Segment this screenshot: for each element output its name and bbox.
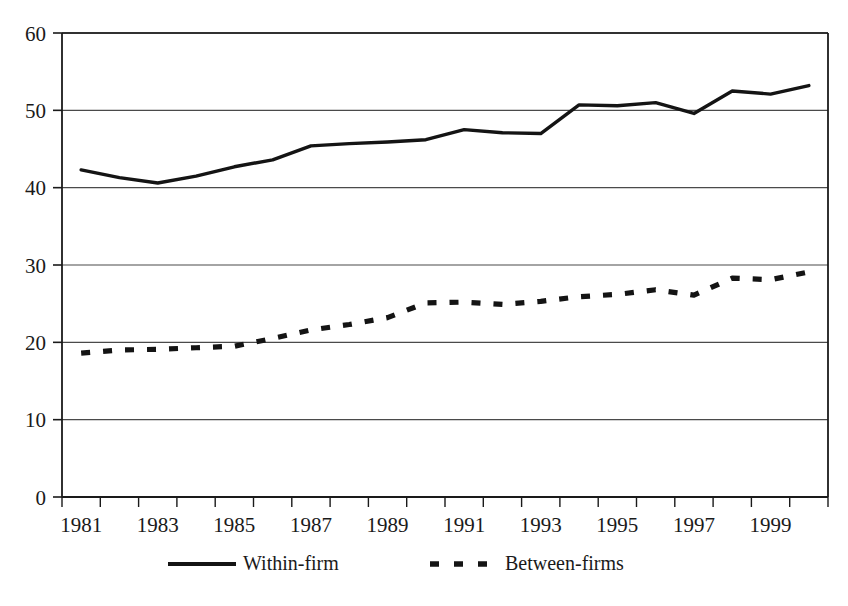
x-tick-label: 1991 — [443, 513, 485, 537]
x-tick-label: 1995 — [596, 513, 638, 537]
legend-label-between-firms: Between-firms — [505, 552, 624, 574]
chart-background — [0, 0, 848, 606]
x-tick-label: 1981 — [60, 513, 102, 537]
y-tick-label: 30 — [25, 254, 46, 278]
x-tick-label: 1989 — [367, 513, 409, 537]
y-tick-label: 10 — [25, 408, 46, 432]
chart-figure: 0102030405060 19811983198519871989199119… — [0, 0, 848, 606]
x-tick-label: 1983 — [137, 513, 179, 537]
x-tick-label: 1985 — [213, 513, 255, 537]
y-tick-label: 20 — [25, 331, 46, 355]
y-tick-label: 50 — [25, 99, 46, 123]
y-tick-label: 60 — [25, 22, 46, 46]
x-axis-ticks — [62, 497, 828, 507]
line-chart: 0102030405060 19811983198519871989199119… — [0, 0, 848, 606]
y-tick-label: 0 — [36, 486, 47, 510]
legend-label-within-firm: Within-firm — [243, 552, 339, 574]
y-tick-label: 40 — [25, 176, 46, 200]
x-tick-label: 1997 — [673, 513, 715, 537]
x-tick-label: 1993 — [520, 513, 562, 537]
x-tick-label: 1987 — [290, 513, 332, 537]
x-tick-label: 1999 — [750, 513, 792, 537]
